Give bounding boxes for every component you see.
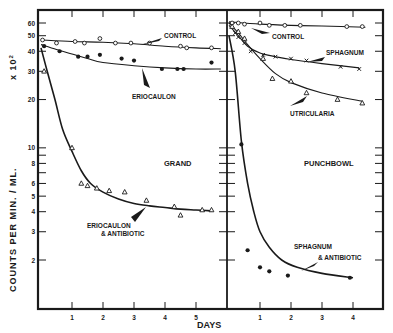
y-axis-exponent: x 102 [8,54,18,80]
label-grand-erio-antibiotic-2: & ANTIBIOTIC [101,230,145,237]
marker-open-circle [185,46,189,50]
x-tick-label: 4 [163,314,167,321]
y-tick-label: 3 [31,228,35,235]
y-tick-label: 4 [31,208,35,215]
curve-sphagnum [229,25,359,68]
marker-filled-circle [246,248,250,252]
curve-sphagnum-antibiotic [229,36,353,278]
marker-filled-circle [286,273,290,277]
label-pointers [131,28,325,271]
marker-filled-circle [42,44,46,48]
x-tick-label: 4 [351,314,355,321]
marker-filled-circle [267,269,271,273]
marker-open-circle [210,46,214,50]
x-tick-label: 3 [320,314,324,321]
marker-filled-circle [348,276,352,280]
y-tick-label: 2 [31,257,35,264]
curve-eriocaulon-antibiotic [41,48,212,211]
x-tick-label: 3 [132,314,136,321]
marker-open-circle [41,38,45,42]
marker-filled-circle [239,142,243,146]
label-punchbowl-sphag-antibiotic-2: & ANTIBIOTIC [318,254,362,261]
y-tick-label: 20 [28,96,36,103]
marker-triangle [85,183,90,187]
marker-triangle [209,207,214,211]
marker-triangle [200,207,205,211]
marker-triangle [304,90,309,94]
marker-triangle [107,188,112,192]
y-tick-label: 5 [31,193,35,200]
y-tick-label: 6 [31,180,35,187]
label-punchbowl-utricularia: UTRICULARIA [290,110,335,117]
marker-open-circle [298,23,302,27]
chart: 605040302010865432 123451234 COUNTS PER … [0,0,393,333]
marker-triangle [172,204,177,208]
marker-open-circle [129,41,133,45]
marker-triangle [178,213,183,217]
y-axis-ticks: 605040302010865432 [28,20,383,264]
y-axis-label: COUNTS PER MIN. / ML. [8,168,18,293]
marker-open-circle [345,25,349,29]
marker-filled-circle [182,67,186,71]
marker-triangle [236,29,241,33]
marker-open-circle [179,44,183,48]
label-pointer-arrow [131,207,146,222]
marker-open-circle [98,37,102,41]
x-axis-label: DAYS [197,320,221,330]
marker-filled-circle [175,67,179,71]
marker-filled-circle [209,60,213,64]
label-pointer-arrow [290,96,307,106]
marker-filled-circle [58,49,62,53]
marker-triangle [289,79,294,83]
marker-triangle [122,189,127,193]
marker-open-circle [83,41,87,45]
marker-filled-circle [258,265,262,269]
marker-open-circle [267,23,271,27]
label-punchbowl-sphag-antibiotic-1: SPHAGNUM [294,243,332,250]
marker-open-circle [283,23,287,27]
label-pointer-arrow [142,68,150,88]
marker-filled-circle [132,58,136,62]
label-grand-control: CONTROL [164,32,196,39]
marker-filled-circle [76,55,80,59]
marker-open-circle [55,41,59,45]
marker-triangle [144,198,149,202]
x-tick-label: 1 [70,314,74,321]
y-tick-label: 10 [28,144,36,151]
marker-triangle [42,69,47,73]
marker-open-circle [243,22,247,26]
marker-triangle [335,97,340,101]
label-grand-erio-antibiotic-1: ERIOCAULON [87,222,131,229]
y-tick-label: 8 [31,160,35,167]
marker-open-circle [258,21,262,25]
label-grand-eriocaulon: ERIOCAULON [132,93,176,100]
x-tick-label: 2 [289,314,293,321]
marker-triangle [270,76,275,80]
panel-title-grand: GRAND [164,159,192,168]
marker-filled-circle [85,55,89,59]
label-punchbowl-control: CONTROL [272,33,304,40]
marker-filled-circle [98,53,102,57]
marker-open-circle [73,40,77,44]
x-tick-label: 2 [101,314,105,321]
y-tick-label: 50 [28,32,36,39]
x-tick-label: 1 [258,314,262,321]
marker-filled-circle [120,56,124,60]
y-tick-label: 60 [28,20,36,27]
label-pointer-arrow [251,28,270,34]
marker-open-circle [114,41,118,45]
marker-filled-circle [160,67,164,71]
marker-triangle [79,181,84,185]
marker-open-circle [360,25,364,29]
y-tick-label: 30 [28,68,36,75]
marker-triangle [242,36,247,40]
label-pointer-arrow [307,57,325,62]
marker-open-circle [236,21,240,25]
panel-title-punchbowl: PUNCHBOWL [304,159,354,168]
label-punchbowl-sphagnum: SPHAGNUM [326,49,364,56]
y-tick-label: 40 [28,48,36,55]
